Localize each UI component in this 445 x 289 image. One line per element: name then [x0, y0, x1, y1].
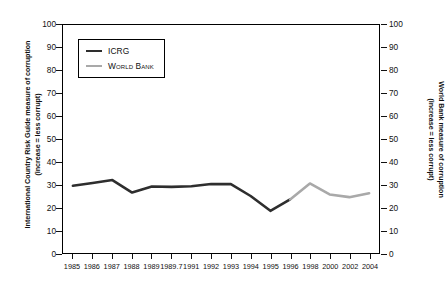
- x-axis-tick-1996: 1996: [282, 262, 298, 271]
- tickmark: [132, 254, 133, 259]
- x-axis-tick-1989.7: 1989.7: [160, 262, 182, 271]
- tickmark: [350, 254, 351, 259]
- tickmark: [211, 254, 212, 259]
- tickmark: [251, 254, 252, 259]
- legend-swatch-icrg: [86, 50, 102, 53]
- y-axis-left-tick-60: 60: [30, 111, 56, 121]
- tickmark: [112, 254, 113, 259]
- y-axis-right-tick-90: 90: [389, 42, 415, 52]
- y-axis-left-tick-50: 50: [30, 134, 56, 144]
- y-axis-left-tick-100: 100: [30, 19, 56, 29]
- tickmark: [381, 254, 387, 255]
- y-axis-right-tick-70: 70: [389, 88, 415, 98]
- tickmark: [381, 70, 387, 71]
- y-axis-left-tick-10: 10: [30, 226, 56, 236]
- tickmark: [171, 254, 172, 259]
- legend-item-icrg: ICRG: [86, 45, 129, 57]
- tickmark: [310, 254, 311, 259]
- tickmark: [92, 254, 93, 259]
- y-axis-left-tick-40: 40: [30, 157, 56, 167]
- legend-label-world-bank: World Bank: [108, 61, 154, 71]
- legend-swatch-world-bank: [86, 65, 102, 67]
- x-axis-tick-1998: 1998: [302, 262, 318, 271]
- tickmark: [381, 139, 387, 140]
- tickmark: [231, 254, 232, 259]
- y-axis-left-tick-20: 20: [30, 203, 56, 213]
- legend-item-world-bank: World Bank: [86, 60, 154, 72]
- y-axis-right-tick-labels: 1009080706050403020100: [389, 0, 415, 289]
- x-axis-tick-labels: 198519861987198819891989.719911992199319…: [0, 262, 445, 276]
- y-axis-right-tickmarks: [381, 0, 388, 289]
- y-axis-left-tick-labels: 1009080706050403020100: [30, 0, 56, 289]
- y-axis-left-tick-30: 30: [30, 180, 56, 190]
- chart-legend: ICRG World Bank: [78, 39, 165, 78]
- x-axis-tick-1987: 1987: [104, 262, 120, 271]
- tickmark: [381, 231, 387, 232]
- tickmark: [381, 162, 387, 163]
- x-axis-tick-1991: 1991: [183, 262, 199, 271]
- y-axis-left-tick-0: 0: [30, 249, 56, 259]
- tickmark: [381, 24, 387, 25]
- y-axis-right-tick-50: 50: [389, 134, 415, 144]
- y-axis-left-tick-90: 90: [30, 42, 56, 52]
- legend-label-icrg: ICRG: [108, 46, 129, 56]
- tickmark: [381, 93, 387, 94]
- x-axis-tick-2000: 2000: [322, 262, 338, 271]
- x-axis-tickmarks: [62, 254, 380, 261]
- x-axis-tick-1993: 1993: [223, 262, 239, 271]
- x-axis-tick-1995: 1995: [263, 262, 279, 271]
- y-axis-left-tick-70: 70: [30, 88, 56, 98]
- tickmark: [291, 254, 292, 259]
- tickmark: [271, 254, 272, 259]
- x-axis-tick-1986: 1986: [84, 262, 100, 271]
- x-axis-tick-1985: 1985: [64, 262, 80, 271]
- tickmark: [381, 47, 387, 48]
- x-axis-tick-2002: 2002: [342, 262, 358, 271]
- tickmark: [330, 254, 331, 259]
- tickmark: [381, 208, 387, 209]
- y-axis-right-tick-80: 80: [389, 65, 415, 75]
- chart-figure: International Country Risk Guide measure…: [0, 0, 445, 289]
- y-axis-right-title: World Bank measure of corruption (increa…: [427, 25, 445, 255]
- y-axis-right-tick-60: 60: [389, 111, 415, 121]
- tickmark: [381, 116, 387, 117]
- tickmark: [370, 254, 371, 259]
- x-axis-tick-1988: 1988: [123, 262, 139, 271]
- x-axis-tick-1992: 1992: [203, 262, 219, 271]
- tickmark: [151, 254, 152, 259]
- y-axis-left-tick-80: 80: [30, 65, 56, 75]
- y-axis-right-tick-30: 30: [389, 180, 415, 190]
- tickmark: [72, 254, 73, 259]
- y-axis-right-title-line2: (increase = less corrupt): [427, 25, 437, 255]
- y-axis-right-tick-40: 40: [389, 157, 415, 167]
- y-axis-right-tick-0: 0: [389, 249, 415, 259]
- y-axis-right-tick-100: 100: [389, 19, 415, 29]
- series-line-world-bank: [290, 183, 369, 199]
- tickmark: [191, 254, 192, 259]
- x-axis-tick-1989: 1989: [143, 262, 159, 271]
- x-axis-tick-2004: 2004: [362, 262, 378, 271]
- x-axis-tick-1994: 1994: [243, 262, 259, 271]
- series-line-icrg: [73, 180, 290, 211]
- y-axis-right-tick-10: 10: [389, 226, 415, 236]
- y-axis-right-title-line1: World Bank measure of corruption: [437, 81, 445, 197]
- tickmark: [381, 185, 387, 186]
- y-axis-right-tick-20: 20: [389, 203, 415, 213]
